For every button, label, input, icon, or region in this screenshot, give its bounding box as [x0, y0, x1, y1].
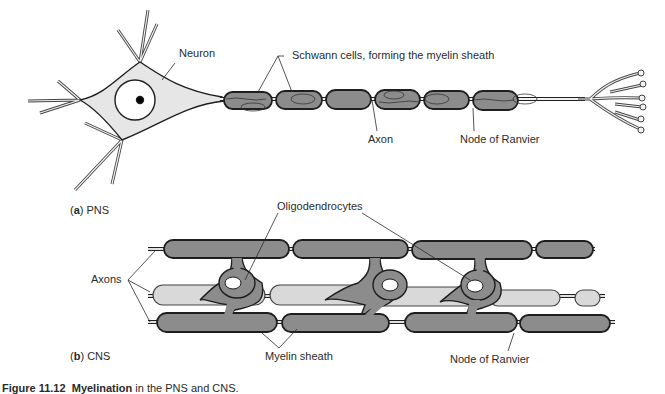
caption-rest: in the PNS and CNS.: [135, 382, 238, 394]
label-axon: Axon: [368, 133, 393, 145]
label-node-of-ranvier-pns: Node of Ranvier: [460, 133, 540, 145]
label-schwann-cells: Schwann cells, forming the myelin sheath: [292, 49, 494, 61]
panel-b-letter: b: [74, 350, 81, 362]
nucleolus: [137, 97, 144, 104]
caption-figure-number: Figure 11.12: [2, 382, 66, 394]
panel-a-title: PNS: [87, 204, 110, 216]
panel-b-label: (b) CNS: [70, 350, 110, 362]
label-myelin-sheath: Myelin sheath: [265, 350, 333, 362]
schwann-cells: [224, 90, 518, 110]
neuron-cell: [28, 10, 224, 190]
label-oligodendrocytes: Oligodendrocytes: [277, 200, 363, 212]
label-neuron: Neuron: [179, 47, 215, 59]
axon-terminals: [578, 73, 642, 129]
label-node-of-ranvier-cns: Node of Ranvier: [450, 353, 530, 365]
panel-a-label: (a) PNS: [70, 204, 109, 216]
figure-caption: Figure 11.12 Myelination in the PNS and …: [2, 382, 239, 394]
nucleus: [115, 80, 155, 120]
panel-b-title: CNS: [87, 350, 110, 362]
panel-a-letter: a: [74, 204, 80, 216]
label-axons: Axons: [91, 273, 122, 285]
caption-title: Myelination: [72, 382, 133, 394]
